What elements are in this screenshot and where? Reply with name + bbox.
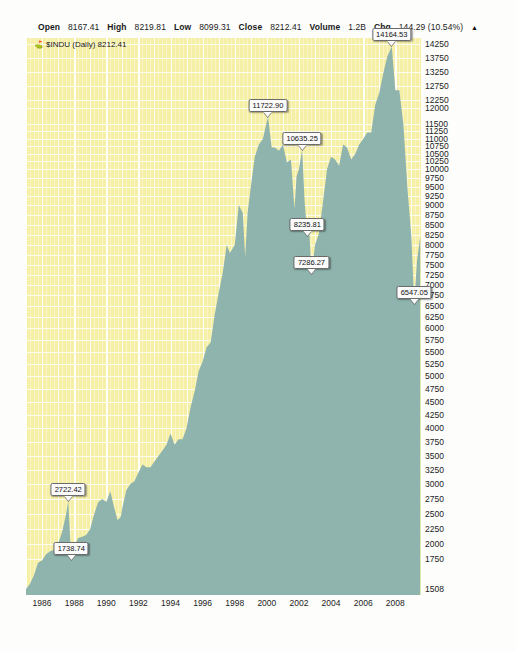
x-axis-tick-label: 1990: [97, 598, 116, 608]
price-annotation-callout: 11722.90: [249, 99, 288, 112]
price-annotation-callout: 2722.42: [51, 483, 86, 496]
x-axis-tick-label: 1992: [129, 598, 148, 608]
y-axis-tick-label: 9000: [425, 201, 444, 210]
y-axis-tick-label: 5250: [425, 360, 444, 369]
y-axis-tick-label: 6000: [425, 324, 444, 333]
x-axis-tick-label: 2004: [322, 598, 341, 608]
callout-tail-icon: [388, 41, 396, 46]
y-axis-tick-label: 7750: [425, 251, 444, 260]
y-axis-tick-label: 3000: [425, 480, 444, 489]
callout-tail-icon: [67, 555, 75, 560]
price-annotation-callout: 6547.05: [397, 286, 432, 299]
x-axis-tick-label: 1998: [225, 598, 244, 608]
y-axis-tick-label: 4500: [425, 398, 444, 407]
x-axis-tick-label: 1988: [65, 598, 84, 608]
y-axis-tick-label: 8250: [425, 231, 444, 240]
close-label: Close: [239, 22, 263, 32]
stockcharts-chart-window: Open 8167.41 High 8219.81 Low 8099.31 Cl…: [0, 0, 516, 651]
y-axis-tick-label: 1508: [425, 585, 444, 594]
y-axis-tick-label: 2750: [425, 495, 444, 504]
price-annotation-label: 14164.53: [372, 28, 411, 41]
x-axis-tick-label: 1996: [193, 598, 212, 608]
chart-title-label: ⛳$INDU (Daily) 8212.41: [34, 40, 126, 49]
up-triangle-icon: ▲: [471, 24, 478, 31]
x-axis: 1986198819901992199419961998200020022004…: [26, 598, 421, 618]
y-axis-tick-label: 7500: [425, 261, 444, 270]
y-axis-tick-label: 2250: [425, 525, 444, 534]
x-axis-tick-label: 2006: [354, 598, 373, 608]
callout-tail-icon: [64, 496, 72, 501]
y-axis-tick-label: 8750: [425, 211, 444, 220]
price-annotation-callout: 7286.27: [294, 256, 329, 269]
low-label: Low: [174, 22, 191, 32]
y-axis-tick-label: 6500: [425, 302, 444, 311]
flag-icon: ⛳: [34, 40, 43, 49]
y-axis-tick-label: 7250: [425, 271, 444, 280]
price-annotation-callout: 10635.25: [283, 132, 322, 145]
callout-tail-icon: [264, 112, 272, 117]
close-value: 8212.41: [270, 22, 301, 32]
y-axis-tick-label: 1750: [425, 555, 444, 564]
open-value: 8167.41: [68, 22, 99, 32]
x-axis-tick-label: 1994: [161, 598, 180, 608]
y-axis-tick-label: 13750: [425, 54, 449, 63]
x-axis-tick-label: 2000: [257, 598, 276, 608]
x-axis-tick-label: 2002: [289, 598, 308, 608]
y-axis-tick-label: 2500: [425, 510, 444, 519]
y-axis-tick-label: 2000: [425, 540, 444, 549]
callout-tail-icon: [303, 231, 311, 236]
y-axis-tick-label: 12000: [425, 104, 449, 113]
y-axis-tick-label: 13250: [425, 68, 449, 77]
x-axis-tick-label: 2008: [386, 598, 405, 608]
callout-tail-icon: [307, 269, 315, 274]
y-axis-tick-label: 8000: [425, 241, 444, 250]
price-annotation-callout: 8235.81: [290, 218, 325, 231]
price-annotation-label: 2722.42: [51, 483, 86, 496]
y-axis-tick-label: 4000: [425, 424, 444, 433]
high-label: High: [107, 22, 126, 32]
price-annotation-label: 7286.27: [294, 256, 329, 269]
price-annotation-callout: 14164.53: [372, 28, 411, 41]
y-axis-tick-label: 5000: [425, 372, 444, 381]
price-annotation-label: 8235.81: [290, 218, 325, 231]
open-label: Open: [38, 22, 60, 32]
y-axis-tick-label: 5500: [425, 348, 444, 357]
y-axis-tick-label: 4750: [425, 385, 444, 394]
x-axis-tick-label: 1986: [33, 598, 52, 608]
high-value: 8219.81: [135, 22, 166, 32]
callout-tail-icon: [410, 299, 418, 304]
quote-header: Open 8167.41 High 8219.81 Low 8099.31 Cl…: [0, 22, 516, 32]
y-axis-tick-label: 3500: [425, 452, 444, 461]
y-axis-tick-label: 5750: [425, 336, 444, 345]
price-annotation-label: 6547.05: [397, 286, 432, 299]
volume-label: Volume: [310, 22, 341, 32]
y-axis-tick-label: 12750: [425, 82, 449, 91]
price-annotation-label: 1738.74: [54, 542, 89, 555]
y-axis-tick-label: 3250: [425, 466, 444, 475]
y-axis-tick-label: 3750: [425, 438, 444, 447]
price-annotation-label: 10635.25: [283, 132, 322, 145]
y-axis-tick-label: 4250: [425, 411, 444, 420]
price-annotation-callout: 1738.74: [54, 542, 89, 555]
price-area-series: [26, 38, 421, 595]
y-axis-tick-label: 14250: [425, 40, 449, 49]
chart-title-text: $INDU (Daily) 8212.41: [46, 40, 126, 49]
y-axis-tick-label: 8500: [425, 221, 444, 230]
price-annotation-label: 11722.90: [249, 99, 288, 112]
y-axis-tick-label: 6250: [425, 313, 444, 322]
volume-value: 1.2B: [348, 22, 366, 32]
low-value: 8099.31: [199, 22, 230, 32]
callout-tail-icon: [298, 145, 306, 150]
chart-plot-area[interactable]: [26, 38, 421, 595]
y-axis: 1425013750132501275012250120001150011250…: [425, 38, 513, 595]
